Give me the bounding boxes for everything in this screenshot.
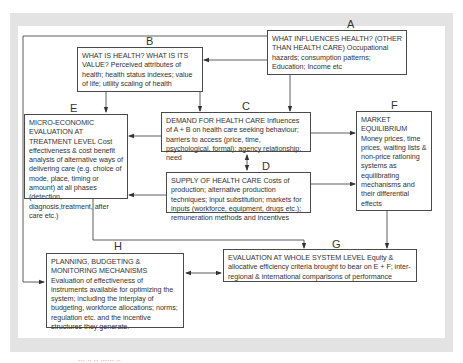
- node-label-e: E: [70, 102, 77, 114]
- node-d-supply-of-health-care: SUPPLY OF HEALTH CARE Costs of productio…: [166, 172, 311, 213]
- node-label-a: A: [347, 18, 354, 30]
- node-e-body: Cost effectiveness & cost benefit analys…: [29, 137, 123, 220]
- node-h-body: Evaluation of effectiveness of instrumen…: [51, 276, 178, 331]
- node-h-planning-budgeting-monitoring: PLANNING, BUDGETING & MONITORING MECHANI…: [46, 253, 184, 328]
- node-f-heading: MARKET EQUILIBRIUM: [361, 115, 407, 133]
- node-e-micro-economic-evaluation: MICRO-ECONOMIC EVALUATION AT TREATMENT L…: [24, 114, 128, 199]
- node-f-market-equilibrium: MARKET EQUILIBRIUM Money prices, time pr…: [356, 111, 432, 211]
- node-label-c: C: [242, 100, 250, 112]
- node-h-heading: PLANNING, BUDGETING & MONITORING MECHANI…: [51, 257, 147, 275]
- node-label-d: D: [262, 160, 270, 172]
- node-a-what-influences-health: WHAT INFLUENCES HEALTH? (OTHER THAN HEAL…: [267, 30, 407, 75]
- node-g-whole-system-evaluation: EVALUATION AT WHOLE SYSTEM LEVEL Equity …: [223, 249, 417, 282]
- node-label-f: F: [391, 99, 398, 111]
- node-f-body: Money prices, time prices, waiting lists…: [361, 134, 427, 208]
- figure-caption: ··· ·· ·· ······ ··: [78, 357, 121, 363]
- node-c-demand-for-health-care: DEMAND FOR HEALTH CARE Influences of A +…: [161, 112, 311, 152]
- node-b-what-is-health: WHAT IS HEALTH? WHAT IS ITS VALUE? Perce…: [77, 47, 203, 92]
- node-g-heading: EVALUATION AT WHOLE SYSTEM LEVEL: [228, 253, 365, 262]
- node-label-b: B: [146, 35, 153, 47]
- node-label-h: H: [114, 240, 122, 252]
- node-c-heading: DEMAND FOR HEALTH CARE: [166, 116, 265, 125]
- node-d-heading: SUPPLY OF HEALTH CARE: [171, 176, 261, 185]
- node-e-heading: MICRO-ECONOMIC EVALUATION AT TREATMENT L…: [29, 118, 96, 146]
